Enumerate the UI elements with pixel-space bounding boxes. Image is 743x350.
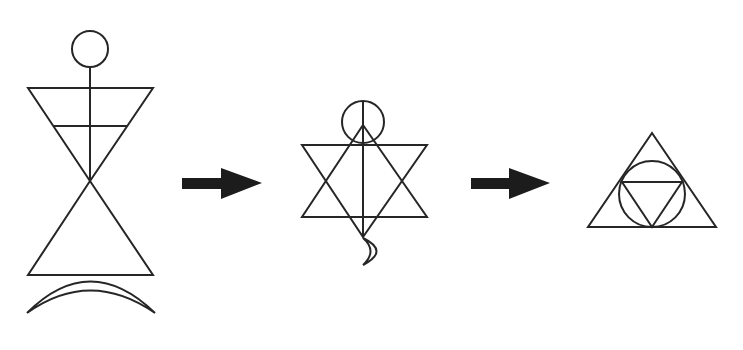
figure-1-crescent-base bbox=[27, 282, 155, 314]
arrow-2-icon bbox=[471, 168, 550, 199]
figure-1-hourglass bbox=[27, 31, 155, 313]
arrow-1-icon bbox=[182, 168, 262, 199]
figure-3-triangle-circle bbox=[588, 133, 716, 227]
figure-2-crescent-moon bbox=[363, 238, 377, 265]
figure-1-head-circle bbox=[72, 31, 108, 67]
diagram-canvas bbox=[0, 0, 743, 350]
figure-2-hexagram bbox=[302, 101, 427, 265]
figure-3-outer-triangle bbox=[588, 133, 716, 227]
figure-1-upright-triangle bbox=[28, 181, 153, 275]
diagram-svg bbox=[0, 0, 743, 350]
